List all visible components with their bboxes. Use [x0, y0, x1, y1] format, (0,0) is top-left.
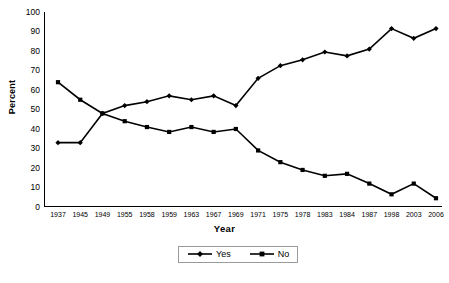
plot-svg [44, 12, 442, 207]
data-point-marker [145, 125, 149, 129]
x-axis-tick-labels: 1937194519491955195819591963196719691971… [44, 210, 442, 222]
legend-label: Yes [216, 250, 231, 259]
series-no [56, 80, 438, 200]
square-marker-icon [249, 249, 275, 259]
x-axis-tick-label: 1987 [358, 210, 380, 219]
diamond-marker-icon [187, 249, 213, 259]
data-point-marker [278, 160, 282, 164]
x-axis-tick-label: 1984 [336, 210, 358, 219]
x-axis-tick-label: 1958 [136, 210, 158, 219]
y-axis-tick-label: 40 [16, 125, 40, 134]
x-axis-tick-label: 1945 [69, 210, 91, 219]
data-point-marker [323, 174, 327, 178]
x-axis-tick-label: 1998 [381, 210, 403, 219]
series-line [58, 82, 436, 198]
data-point-marker [212, 130, 216, 134]
data-point-marker [300, 57, 305, 62]
data-point-marker [167, 130, 171, 134]
data-point-marker [259, 252, 264, 257]
x-axis-tick-label: 1969 [225, 210, 247, 219]
data-point-marker [411, 36, 416, 41]
data-point-marker [144, 99, 149, 104]
y-axis-tick-labels: 1009080706050403020100 [12, 12, 40, 207]
y-axis-tick-label: 70 [16, 66, 40, 75]
data-point-marker [56, 80, 60, 84]
data-point-marker [100, 111, 104, 115]
data-point-marker [78, 98, 82, 102]
data-point-marker [123, 119, 127, 123]
y-axis-tick-label: 100 [16, 8, 40, 17]
legend-label: No [278, 250, 290, 259]
x-axis-tick-label: 1959 [158, 210, 180, 219]
x-axis-title: Year [0, 223, 449, 234]
x-axis-tick-label: 1975 [269, 210, 291, 219]
data-point-marker [197, 251, 203, 257]
y-axis-tick-label: 20 [16, 164, 40, 173]
x-axis-tick-label: 1963 [180, 210, 202, 219]
y-axis-tick-label: 80 [16, 47, 40, 56]
data-point-marker [189, 97, 194, 102]
data-point-marker [345, 172, 349, 176]
data-point-marker [433, 26, 438, 31]
data-point-marker [211, 93, 216, 98]
data-point-marker [344, 53, 349, 58]
y-axis-tick-label: 50 [16, 105, 40, 114]
data-point-marker [122, 103, 127, 108]
data-point-marker [189, 125, 193, 129]
data-point-marker [55, 140, 60, 145]
data-point-marker [412, 182, 416, 186]
data-point-marker [434, 196, 438, 200]
x-axis-tick-label: 1983 [314, 210, 336, 219]
data-point-marker [300, 168, 304, 172]
x-axis-tick-label: 1937 [47, 210, 69, 219]
data-point-marker [389, 192, 393, 196]
x-axis-tick-label: 2006 [425, 210, 447, 219]
data-point-marker [234, 127, 238, 131]
data-point-marker [167, 93, 172, 98]
line-chart: Percent 1009080706050403020100 193719451… [0, 0, 449, 283]
y-axis-tick-label: 90 [16, 27, 40, 36]
legend-item-no[interactable]: No [249, 249, 290, 259]
x-axis-tick-label: 1955 [114, 210, 136, 219]
x-axis-tick-label: 1978 [292, 210, 314, 219]
y-axis-tick-label: 60 [16, 86, 40, 95]
y-axis-tick-label: 0 [16, 203, 40, 212]
x-axis-tick-label: 1967 [203, 210, 225, 219]
plot-area [44, 12, 442, 207]
legend-item-yes[interactable]: Yes [187, 249, 231, 259]
data-point-marker [367, 182, 371, 186]
chart-legend: YesNo [178, 246, 298, 263]
x-axis-tick-label: 1971 [247, 210, 269, 219]
y-axis-tick-label: 10 [16, 183, 40, 192]
y-axis-tick-label: 30 [16, 144, 40, 153]
x-axis-tick-label: 1949 [91, 210, 113, 219]
data-point-marker [322, 49, 327, 54]
series-yes [55, 26, 438, 145]
x-axis-tick-label: 2003 [403, 210, 425, 219]
data-point-marker [256, 148, 260, 152]
series-line [58, 29, 436, 143]
